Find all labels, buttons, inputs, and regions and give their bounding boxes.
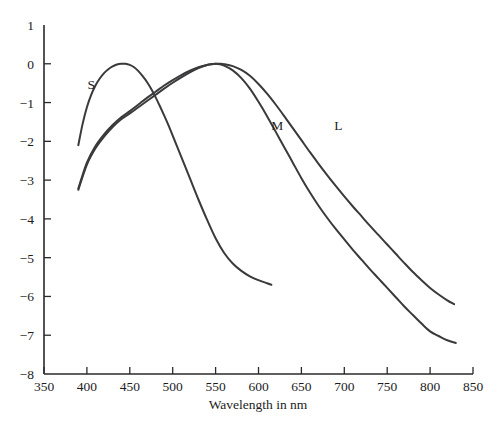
x-tick-label: 750 bbox=[377, 379, 398, 394]
x-tick-label: 600 bbox=[248, 379, 269, 394]
y-tick-label: −2 bbox=[20, 134, 34, 149]
x-tick-label: 450 bbox=[120, 379, 141, 394]
y-tick-label: −5 bbox=[20, 251, 35, 266]
y-tick-label: −6 bbox=[20, 289, 35, 304]
spectral-sensitivity-chart: 35040045050055060065070075080085010−1−2−… bbox=[0, 0, 501, 430]
y-tick-label: −3 bbox=[20, 173, 35, 188]
y-tick-label: 1 bbox=[27, 18, 34, 33]
curve-label-l: L bbox=[334, 118, 342, 133]
y-tick-label: −4 bbox=[20, 212, 35, 227]
x-tick-label: 800 bbox=[420, 379, 441, 394]
x-axis-title: Wavelength in nm bbox=[209, 397, 308, 412]
curve-label-m: M bbox=[271, 118, 283, 133]
x-tick-label: 500 bbox=[163, 379, 184, 394]
x-tick-label: 650 bbox=[291, 379, 312, 394]
y-tick-label: −1 bbox=[20, 96, 34, 111]
curve-label-s: S bbox=[87, 77, 95, 92]
x-tick-label: 400 bbox=[77, 379, 98, 394]
y-tick-label: −7 bbox=[20, 328, 35, 343]
chart-figure: 35040045050055060065070075080085010−1−2−… bbox=[0, 0, 501, 430]
x-tick-label: 350 bbox=[34, 379, 55, 394]
x-tick-label: 700 bbox=[334, 379, 355, 394]
y-tick-label: 0 bbox=[27, 57, 34, 72]
chart-background bbox=[0, 0, 501, 430]
x-tick-label: 550 bbox=[205, 379, 226, 394]
y-tick-label: −8 bbox=[20, 367, 35, 382]
x-tick-label: 850 bbox=[463, 379, 484, 394]
